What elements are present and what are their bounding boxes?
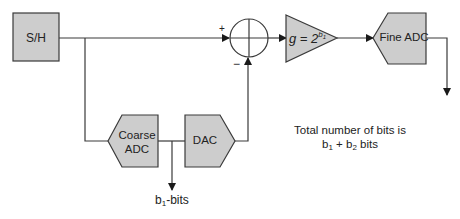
coarse-bits-label: b1-bits (155, 194, 189, 208)
total-bits-note-line2: b1 + b2 bits (290, 137, 410, 155)
dac-label: DAC (185, 135, 225, 147)
gain-label: g = 2b1 (289, 31, 326, 45)
summer-plus-sign: + (219, 24, 225, 34)
sample-hold-label: S/H (13, 32, 59, 44)
summing-junction (230, 19, 268, 57)
coarse-adc-label: Coarse ADC (112, 128, 162, 156)
summer-minus-sign: − (233, 58, 240, 70)
coarse-adc-line2: ADC (112, 142, 162, 156)
gain-label-prefix: g = 2 (289, 31, 318, 46)
fine-adc-label: Fine ADC (379, 32, 429, 44)
total-bits-note-line1: Total number of bits is (290, 123, 410, 137)
gain-exponent: b1 (318, 30, 326, 39)
coarse-adc-line1: Coarse (112, 128, 162, 142)
wire-branch-to-coarse (85, 38, 108, 141)
wire-fine-out (426, 38, 447, 95)
total-bits-note: Total number of bits is b1 + b2 bits (290, 123, 410, 155)
diagram-canvas: S/H + − g = 2b1 Fine ADC Coarse ADC DAC … (0, 0, 460, 219)
